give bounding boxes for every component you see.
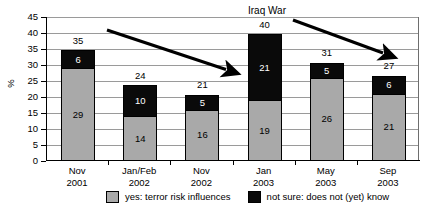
bar-segment-value: 6 [62,55,94,65]
bar-segment-not-sure: 6 [61,50,95,69]
bar-segment-value: 16 [186,130,218,140]
x-category-line: May [294,165,358,177]
gridline [47,33,418,34]
bar-group: 241014 [123,85,157,161]
x-category-label: Sep2003 [356,165,420,188]
legend-swatch-gray [106,191,119,203]
x-category-line: Nov [169,165,233,177]
y-tick-mark [41,161,46,162]
iraq-war-annotation-label: Iraq War [248,6,286,16]
gridline [47,81,418,82]
gridline [47,145,418,146]
bar-segment-value: 19 [249,126,281,136]
x-category-line: Jan/Feb [107,165,171,177]
y-tick-label: 30 [18,60,38,70]
gridline [47,97,418,98]
bar-group: 31526 [310,63,344,161]
x-category-label: Nov2002 [169,165,233,188]
x-category-line: Nov [45,165,109,177]
gridline [47,49,418,50]
legend-item: not sure: does not (yet) know [248,191,390,203]
x-category-label: May2003 [294,165,358,188]
x-category-label: Jan/Feb2002 [107,165,171,188]
y-tick-label: 15 [18,108,38,118]
x-category-line: 2003 [232,177,296,189]
gridline [47,113,418,114]
bar-segment-yes: 21 [372,94,406,161]
bar-segment-not-sure: 5 [310,63,344,79]
x-category-line: 2003 [294,177,358,189]
x-category-line: 2002 [107,177,171,189]
bar-segment-value: 6 [373,80,405,90]
bar-segment-value: 14 [124,134,156,144]
bar-total-label: 24 [117,71,163,81]
bar-group: 402119 [248,34,282,161]
bar-total-label: 21 [179,80,225,90]
x-category-line: Jan [232,165,296,177]
legend-label: not sure: does not (yet) know [267,192,390,202]
bar-segment-yes: 29 [61,68,95,161]
bar-segment-not-sure: 6 [372,76,406,95]
x-category-label: Nov2001 [45,165,109,188]
bar-segment-value: 21 [373,122,405,132]
y-tick-label: 10 [18,124,38,134]
bar-total-label: 35 [55,36,101,46]
y-tick-label: 40 [18,28,38,38]
y-tick-label: 20 [18,92,38,102]
bar-segment-value: 26 [311,114,343,124]
bar-total-label: 31 [304,48,350,58]
bar-segment-yes: 19 [248,100,282,161]
bar-total-label: 27 [366,61,412,71]
gridline [47,65,418,66]
x-category-line: Sep [356,165,420,177]
bar-segment-yes: 16 [185,110,219,161]
y-tick-label: 35 [18,44,38,54]
y-tick-label: 45 [18,12,38,22]
gridline [47,129,418,130]
legend-swatch-black [248,191,261,203]
bar-segment-yes: 26 [310,78,344,161]
chart-legend: yes: terror risk influencesnot sure: doe… [106,191,406,203]
bar-group: 27621 [372,76,406,161]
bar-group: 21516 [185,95,219,161]
y-tick-label: 25 [18,76,38,86]
x-category-line: 2001 [45,177,109,189]
bar-segment-not-sure: 10 [123,85,157,117]
bar-group: 35629 [61,50,95,161]
bar-segment-value: 5 [311,66,343,76]
bar-segment-value: 21 [249,63,281,73]
gridline [47,17,418,18]
y-axis-tick-labels: 454035302520151050 [12,0,38,215]
x-category-line: 2003 [356,177,420,189]
x-category-line: 2002 [169,177,233,189]
bar-segment-not-sure: 21 [248,34,282,101]
y-tick-label: 5 [18,140,38,150]
stacked-bar-chart: % 454035302520151050 3562924101421516402… [0,0,438,215]
bar-segment-yes: 14 [123,116,157,161]
bar-total-label: 40 [242,20,288,30]
y-tick-label: 0 [18,156,38,166]
plot-area: 35629241014215164021193152627621 [46,17,419,161]
bar-segment-value: 5 [186,98,218,108]
bar-segment-value: 29 [62,110,94,120]
x-category-label: Jan2003 [232,165,296,188]
bar-segment-value: 10 [124,96,156,106]
legend-label: yes: terror risk influences [125,192,231,202]
bar-segment-not-sure: 5 [185,95,219,111]
legend-item: yes: terror risk influences [106,191,231,203]
